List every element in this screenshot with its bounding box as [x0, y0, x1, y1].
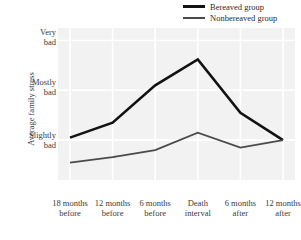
plot-area	[58, 28, 295, 180]
legend-item-bereaved: Bereaved group	[183, 1, 301, 12]
x-tick-5: 12 monthsafter	[254, 198, 301, 218]
y-tick-slightly-bad: Slightly bad	[0, 131, 56, 150]
chart-figure: Bereaved group Nonbereaved group Average…	[0, 0, 301, 240]
legend-label-bereaved: Bereaved group	[210, 2, 264, 12]
y-tick-mostly-bad-line2: bad	[0, 88, 56, 98]
x-tick-5-line2: after	[254, 208, 301, 218]
x-tick-5-line1: 12 months	[254, 198, 301, 208]
series-lines	[70, 59, 283, 162]
series-line-nonbereaved	[70, 133, 283, 163]
legend-label-nonbereaved: Nonbereaved group	[210, 13, 277, 23]
y-tick-very-bad: Very bad	[0, 28, 56, 47]
chart-canvas	[58, 28, 295, 180]
y-tick-slightly-bad-line2: bad	[0, 141, 56, 151]
series-line-bereaved	[70, 59, 283, 140]
legend-item-nonbereaved: Nonbereaved group	[183, 12, 301, 23]
legend-swatch-nonbereaved-icon	[183, 17, 205, 19]
y-tick-very-bad-line2: bad	[0, 38, 56, 48]
chart-legend: Bereaved group Nonbereaved group	[183, 1, 301, 23]
gridlines	[58, 28, 295, 180]
x-axis-tick-labels: 18 monthsbefore12 monthsbefore6 monthsbe…	[58, 198, 295, 232]
y-tick-mostly-bad: Mostly bad	[0, 78, 56, 97]
legend-swatch-bereaved-icon	[183, 5, 205, 8]
